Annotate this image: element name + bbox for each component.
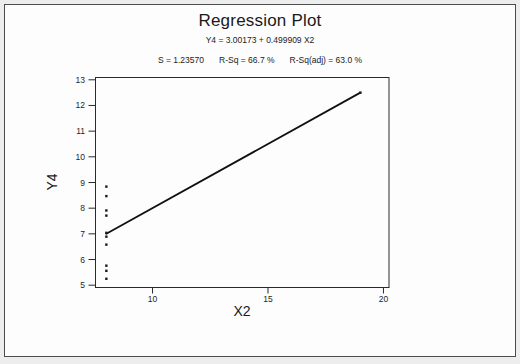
data-point xyxy=(105,243,107,245)
data-point xyxy=(105,232,107,234)
data-point xyxy=(105,185,107,187)
data-point xyxy=(105,270,107,272)
y-axis-label: Y4 xyxy=(44,160,60,204)
data-point xyxy=(105,264,107,266)
y-tick-label: 6 xyxy=(80,255,85,265)
y-tick-label: 10 xyxy=(76,152,86,162)
data-point xyxy=(105,278,107,280)
y-tick-label: 8 xyxy=(80,203,85,213)
plot-frame xyxy=(96,78,390,288)
y-tick-label: 5 xyxy=(80,280,85,290)
y-tick-label: 11 xyxy=(76,126,85,136)
regression-line xyxy=(106,93,360,234)
y-tick-label: 9 xyxy=(80,178,85,188)
y-tick-label: 13 xyxy=(76,75,86,85)
data-point xyxy=(105,209,107,211)
data-point xyxy=(105,235,107,237)
data-point xyxy=(359,91,361,93)
data-point xyxy=(105,195,107,197)
y-tick-label: 12 xyxy=(76,100,86,110)
data-point xyxy=(105,214,107,216)
x-axis-label: X2 xyxy=(0,303,484,319)
graph-window: Regression Plot Y4 = 3.00173 + 0.499909 … xyxy=(0,0,520,364)
y-tick-label: 7 xyxy=(80,229,85,239)
